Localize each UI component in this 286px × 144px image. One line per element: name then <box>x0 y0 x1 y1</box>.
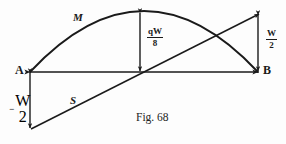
shear-curve-label: S <box>70 95 76 106</box>
moment-curve-label: M <box>73 12 83 23</box>
left-dimension-minus-sign: − <box>9 104 14 114</box>
center-dimension-label: qW 8 <box>147 27 163 48</box>
center-dimension-numerator: qW <box>147 27 163 36</box>
point-label-a: A <box>15 64 24 76</box>
left-dimension-fraction: W 2 <box>15 93 30 125</box>
left-dimension-denominator: 2 <box>19 109 27 125</box>
moment-parabola-curve <box>30 11 258 72</box>
moment-parabola <box>30 11 258 72</box>
right-dimension-numerator: W <box>266 29 277 38</box>
left-dimension-label: − W 2 <box>9 93 30 125</box>
point-label-b: B <box>263 64 271 76</box>
right-dimension-denominator: 2 <box>268 41 275 50</box>
right-dimension-label: W 2 <box>266 29 277 50</box>
figure-caption: Fig. 68 <box>136 112 169 124</box>
left-dimension-numerator: W <box>15 93 30 109</box>
center-dimension-denominator: 8 <box>152 39 159 48</box>
figure-68-container: A B M S qW 8 W 2 − W 2 Fig. 68 <box>0 0 286 144</box>
